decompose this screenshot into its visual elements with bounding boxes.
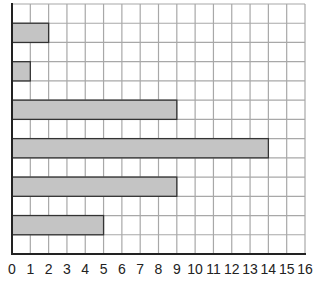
x-tick-label: 0 bbox=[8, 261, 16, 277]
bar bbox=[12, 23, 49, 42]
x-tick-label: 8 bbox=[155, 261, 163, 277]
x-tick-label: 14 bbox=[261, 261, 277, 277]
x-tick-label: 11 bbox=[206, 261, 221, 277]
bar bbox=[12, 139, 268, 158]
bar bbox=[12, 177, 177, 196]
x-tick-label: 1 bbox=[26, 261, 34, 277]
bar bbox=[12, 100, 177, 119]
x-tick-label: 9 bbox=[173, 261, 181, 277]
x-tick-label: 13 bbox=[242, 261, 258, 277]
x-tick-label: 12 bbox=[224, 261, 240, 277]
x-tick-label: 2 bbox=[45, 261, 53, 277]
x-tick-label: 7 bbox=[136, 261, 144, 277]
bar bbox=[12, 216, 104, 235]
x-tick-label: 4 bbox=[81, 261, 89, 277]
x-tick-label: 16 bbox=[297, 261, 313, 277]
x-tick-label: 3 bbox=[63, 261, 71, 277]
x-tick-label: 5 bbox=[100, 261, 108, 277]
x-tick-label: 10 bbox=[187, 261, 203, 277]
x-tick-label: 6 bbox=[118, 261, 126, 277]
bar bbox=[12, 62, 30, 81]
bar-chart bbox=[0, 0, 316, 283]
x-tick-label: 15 bbox=[279, 261, 295, 277]
